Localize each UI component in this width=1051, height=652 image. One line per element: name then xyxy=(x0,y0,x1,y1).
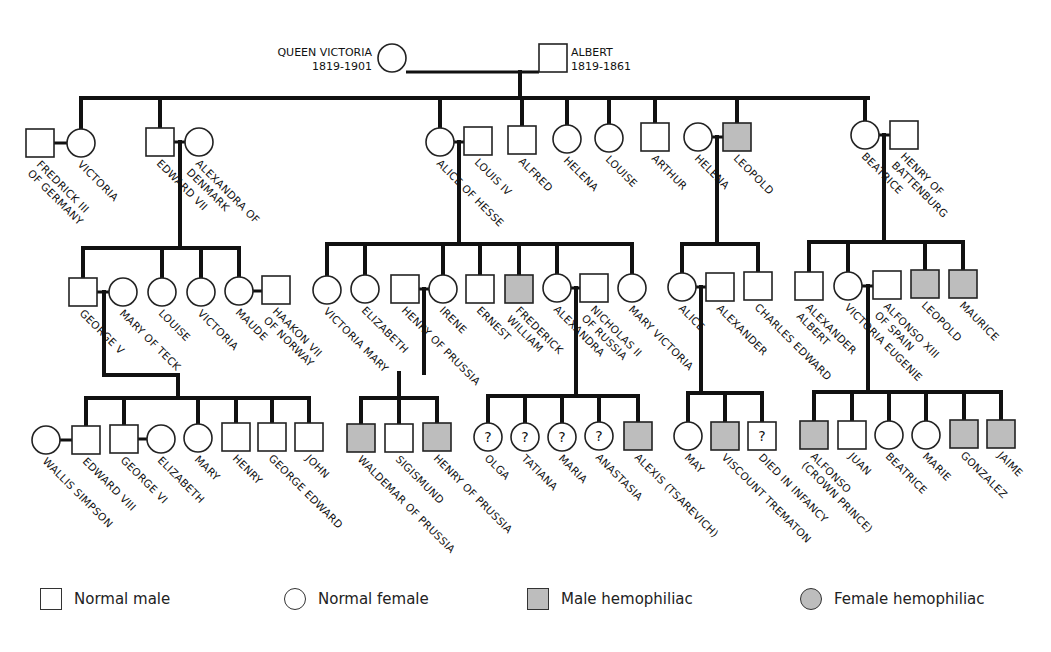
circle-icon xyxy=(875,421,903,449)
person-label: GEORGE EDWARD xyxy=(267,452,346,531)
legend-male-hemophiliac: Male hemophiliac xyxy=(527,588,693,610)
shaded-square-icon xyxy=(949,270,977,298)
square-icon xyxy=(641,123,669,151)
square-icon xyxy=(466,275,494,303)
shaded-square-icon xyxy=(987,420,1015,448)
square-icon xyxy=(795,272,823,300)
person-label: LEOPOLD xyxy=(732,152,777,197)
square-icon xyxy=(262,276,290,304)
square-icon xyxy=(295,423,323,451)
person-label: HELENA xyxy=(562,154,602,194)
question-mark: ? xyxy=(595,428,602,444)
legend-label: Male hemophiliac xyxy=(561,590,693,608)
person-hob: HENRY OFBATTENBURG xyxy=(890,121,951,220)
person-alf: ALFRED xyxy=(508,126,555,194)
person-mar: ?MARIA xyxy=(548,423,590,486)
founder-years: 1819-1861 xyxy=(571,60,631,73)
square-icon xyxy=(69,278,97,306)
person-ire: IRENE xyxy=(429,275,469,336)
circle-icon xyxy=(684,123,712,151)
person-label: LOUISE xyxy=(604,153,641,190)
person-label: LOUISE xyxy=(157,307,194,344)
person-label: ALEXIS (TSAREVICH) xyxy=(633,451,722,540)
legend: Normal male Normal female Male hemophili… xyxy=(40,588,1040,618)
circle-icon xyxy=(378,44,406,72)
person-lo2: LOUISE xyxy=(148,278,193,343)
person-lou: LOUISE xyxy=(595,124,640,189)
person-label: JUAN xyxy=(846,449,874,477)
circle-icon xyxy=(553,125,581,153)
legend-normal-male: Normal male xyxy=(40,588,170,610)
shaded-square-icon xyxy=(711,422,739,450)
circle-icon xyxy=(851,121,879,149)
question-mark: ? xyxy=(484,429,491,445)
circle-icon xyxy=(426,128,454,156)
legend-label: Normal male xyxy=(74,590,170,608)
person-mri: MARIE xyxy=(912,421,954,483)
person-label: MARIE xyxy=(921,450,954,483)
person-label: OLGA xyxy=(483,452,514,483)
square-icon xyxy=(580,274,608,302)
person-label: ARTHUR xyxy=(650,152,690,192)
person-hel: HELENA xyxy=(553,125,601,194)
person-label: HENRY xyxy=(231,452,266,487)
square-icon xyxy=(26,129,54,157)
circle-icon xyxy=(225,277,253,305)
person-label: MAY xyxy=(683,451,708,476)
circle-icon xyxy=(313,276,341,304)
square-icon xyxy=(385,424,413,452)
founders: QUEEN VICTORIA1819-1901ALBERT1819-1861 xyxy=(277,44,631,73)
circle-icon xyxy=(429,275,457,303)
founder-name: QUEEN VICTORIA xyxy=(277,46,372,59)
circle-icon xyxy=(67,129,95,157)
circle-icon xyxy=(32,426,60,454)
square-icon xyxy=(72,426,100,454)
person-label: HENRY OF PRUSSIA xyxy=(400,304,484,388)
legend-normal-female: Normal female xyxy=(284,588,429,610)
person-joh: JOHN xyxy=(295,423,332,480)
circle-icon xyxy=(109,278,137,306)
circle-icon xyxy=(618,274,646,302)
circle-icon xyxy=(284,588,306,610)
square-icon xyxy=(539,44,567,72)
legend-female-hemophiliac: Female hemophiliac xyxy=(800,588,985,610)
person-label: HELENA xyxy=(693,152,733,192)
person-mry: MARY xyxy=(184,424,223,483)
person-label: JOHN xyxy=(303,451,332,480)
legend-label: Female hemophiliac xyxy=(834,590,985,608)
person-label: MARIA xyxy=(557,452,591,486)
question-mark: ? xyxy=(521,429,528,445)
circle-icon xyxy=(147,425,175,453)
circle-icon xyxy=(834,272,862,300)
person-label: ALICE OF HESSE xyxy=(435,157,507,229)
circle-icon xyxy=(674,422,702,450)
circle-icon xyxy=(185,128,213,156)
founder-al: ALBERT1819-1861 xyxy=(539,44,631,73)
circle-icon xyxy=(668,273,696,301)
shaded-square-icon xyxy=(911,270,939,298)
person-label: ALFRED xyxy=(517,155,556,194)
circle-icon xyxy=(148,278,176,306)
person-alx: ALEXANDRA OFDENMARK xyxy=(185,128,263,226)
shaded-square-icon xyxy=(505,275,533,303)
person-olg: ?OLGA xyxy=(474,423,513,482)
shaded-square-icon xyxy=(347,424,375,452)
square-icon xyxy=(873,271,901,299)
square-icon xyxy=(890,121,918,149)
circle-icon xyxy=(912,421,940,449)
shaded-square-icon xyxy=(723,123,751,151)
person-alx2: ALEXIS (TSAREVICH) xyxy=(624,422,721,540)
question-mark: ? xyxy=(758,428,765,444)
square-icon xyxy=(744,272,772,300)
square-icon xyxy=(146,128,174,156)
square-icon xyxy=(706,273,734,301)
shaded-square-icon xyxy=(800,421,828,449)
person-leo: LEOPOLD xyxy=(723,123,776,197)
shaded-circle-icon xyxy=(800,588,822,610)
question-mark: ? xyxy=(558,429,565,445)
founder-name: ALBERT xyxy=(571,46,613,59)
person-art: ARTHUR xyxy=(641,123,690,192)
square-icon xyxy=(464,127,492,155)
circle-icon xyxy=(595,124,623,152)
founder-qv: QUEEN VICTORIA1819-1901 xyxy=(277,44,406,73)
